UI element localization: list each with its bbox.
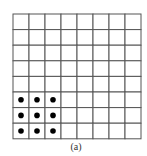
grid-cell [125,76,141,92]
grid-cell [61,92,77,108]
grid-cell [45,14,61,30]
grid-cell [125,92,141,108]
grid-cell [13,61,29,77]
grid-cell [109,108,125,124]
grid-cell [109,61,125,77]
grid-cell [93,76,109,92]
dot-marker [50,128,56,134]
grid-cell [77,14,93,30]
grid-cell [93,30,109,46]
grid-cell [77,92,93,108]
grid-cell [29,14,45,30]
grid-cell [77,45,93,61]
grid-cell [13,76,29,92]
grid-cell [61,14,77,30]
grid-cell [125,123,141,139]
grid-cell [61,76,77,92]
grid-cell [45,61,61,77]
grid-cell [125,108,141,124]
grid-cell [77,61,93,77]
grid-cell [61,108,77,124]
grid-cell [125,30,141,46]
grid-cell [77,108,93,124]
grid-cell [29,45,45,61]
grid-cell [13,30,29,46]
grid-cell [93,92,109,108]
grid-cell [29,76,45,92]
grid-cell [93,45,109,61]
grid-cell [61,30,77,46]
grid-diagram [12,13,142,140]
grid-cell [61,45,77,61]
grid-cell [109,30,125,46]
grid-cell [45,76,61,92]
grid-cell [109,92,125,108]
grid-cell [109,45,125,61]
grid-cell [109,123,125,139]
grid-cell [93,14,109,30]
dot-marker [18,113,24,119]
grid-cell [29,61,45,77]
grid-cell [61,123,77,139]
grid-cell [45,45,61,61]
figure-caption: (a) [0,141,147,152]
grid-cell [13,14,29,30]
grid-cell [125,61,141,77]
grid-cell [45,30,61,46]
grid-cell [77,76,93,92]
grid-cell [61,61,77,77]
grid-cell [77,123,93,139]
dot-marker [50,97,56,103]
grid-cell [93,108,109,124]
dot-marker [34,113,40,119]
grid-cell [29,30,45,46]
grid-cell [13,45,29,61]
grid-cell [125,14,141,30]
dot-marker [34,97,40,103]
grid-cell [125,45,141,61]
dot-marker [34,128,40,134]
grid-cell [109,14,125,30]
grid-cell [77,30,93,46]
dot-marker [18,128,24,134]
dot-marker [18,97,24,103]
dot-marker [50,113,56,119]
grid-cell [109,76,125,92]
grid-cell [93,61,109,77]
grid-cell [93,123,109,139]
